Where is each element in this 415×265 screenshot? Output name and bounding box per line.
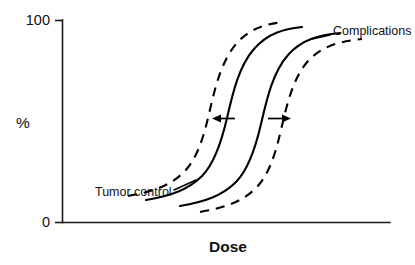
x-axis-label: Dose — [209, 238, 247, 255]
y-axis-label: % — [16, 114, 30, 131]
left-shift-arrow — [212, 115, 235, 123]
shift-arrows-group — [212, 115, 291, 123]
right-shift-arrow — [268, 115, 291, 123]
annotation-tumor-control: Tumor control — [95, 185, 172, 199]
chart-figure: 100 0 % Dose — [0, 0, 415, 265]
curve-tumor-control-solid — [146, 27, 302, 200]
annotation-complications: Complications — [333, 24, 412, 38]
curves-group — [128, 22, 362, 212]
curve-complications-solid — [180, 33, 340, 206]
right-arrow-head — [282, 115, 291, 123]
y-tick-label-bottom: 0 — [42, 214, 50, 230]
y-tick-label-top: 100 — [26, 12, 50, 28]
chart-canvas: 100 0 % Dose — [0, 0, 415, 265]
left-arrow-head — [212, 115, 221, 123]
